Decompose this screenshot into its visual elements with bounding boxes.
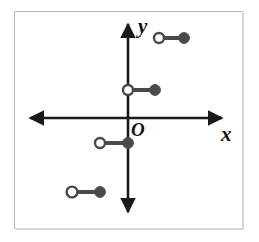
origin-label: O — [131, 120, 145, 139]
graph-figure: y x O — [0, 0, 259, 242]
step-segment-1 — [154, 33, 189, 44]
closed-endpoint-marker — [179, 33, 190, 44]
step-segment-3 — [95, 138, 133, 149]
step-segment-2 — [123, 85, 160, 96]
open-endpoint-marker — [67, 187, 78, 198]
open-endpoint-marker — [154, 33, 164, 43]
graph-canvas — [0, 0, 259, 242]
x-axis-label: x — [221, 124, 232, 145]
open-endpoint-marker — [95, 138, 105, 148]
open-endpoint-marker — [123, 85, 133, 95]
step-segment-4 — [67, 187, 106, 198]
closed-endpoint-marker — [150, 85, 161, 96]
closed-endpoint-marker — [95, 187, 106, 198]
y-axis-label: y — [138, 16, 147, 37]
